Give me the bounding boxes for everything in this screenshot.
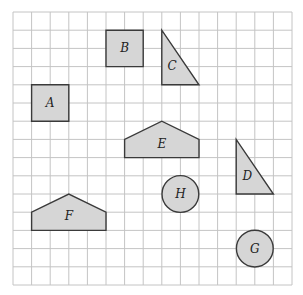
shape-circle-h: H [162, 176, 199, 213]
shape-pentagon-f: F [32, 194, 106, 230]
shape-label: D [242, 169, 253, 183]
shape-label: C [167, 59, 176, 73]
shape-pentagon-e: E [125, 121, 199, 157]
shape-label: A [45, 96, 55, 110]
shape-label: H [174, 187, 186, 201]
shape-square-b: B [106, 30, 143, 66]
shape-label: F [64, 209, 74, 223]
grid-diagram: ABCDEFGH [0, 0, 303, 295]
shape-circle-g: G [236, 230, 273, 267]
shape-label: E [156, 137, 166, 151]
shapes: ABCDEFGH [32, 30, 274, 267]
shape-label: B [119, 41, 129, 55]
shape-square-a: A [32, 85, 69, 121]
shape-label: G [250, 242, 260, 256]
